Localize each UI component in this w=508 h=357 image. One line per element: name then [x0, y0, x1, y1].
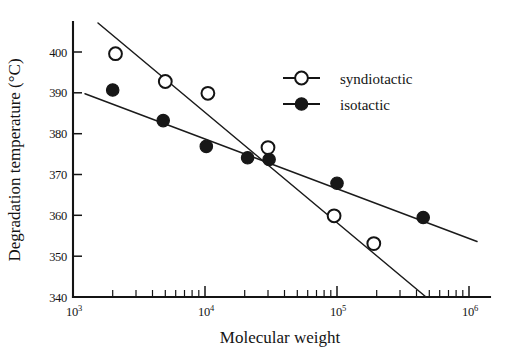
- axis-lines: [73, 22, 490, 297]
- x-axis-title: Molecular weight: [220, 328, 341, 347]
- y-tick-label: 350: [49, 250, 67, 264]
- data-point-isotactic: [417, 211, 429, 223]
- legend-label-isotactic: isotactic: [340, 97, 390, 113]
- legend: syndiotactic isotactic: [283, 71, 413, 113]
- legend-marker-filled-circle: [295, 98, 307, 110]
- y-axis-title: Degradation temperature (°C): [5, 58, 24, 261]
- x-tick-label: 103: [66, 303, 82, 319]
- data-point-syndiotactic: [328, 209, 341, 222]
- data-point-syndiotactic: [109, 47, 122, 60]
- trend-lines: [85, 23, 477, 297]
- data-point-syndiotactic: [367, 237, 380, 250]
- data-point-syndiotactic: [262, 141, 275, 154]
- y-tick-label: 370: [49, 168, 67, 182]
- x-tick-label: 105: [330, 303, 346, 319]
- data-point-isotactic: [200, 140, 212, 152]
- data-point-syndiotactic: [159, 75, 172, 88]
- data-point-syndiotactic: [202, 87, 215, 100]
- data-point-isotactic: [331, 177, 343, 189]
- y-tick-label: 340: [49, 291, 67, 305]
- y-axis-tick-labels: 400 390 380 370 360 350 340: [49, 46, 67, 305]
- legend-marker-open-circle: [295, 72, 308, 85]
- data-point-isotactic: [157, 114, 169, 126]
- y-tick-label: 390: [49, 86, 67, 100]
- chart-canvas: 400 390 380 370 360 350 340: [0, 0, 508, 357]
- degradation-temperature-chart: 400 390 380 370 360 350 340: [0, 0, 508, 357]
- y-tick-label: 380: [49, 127, 67, 141]
- x-axis-tick-labels: 103 104 105 106: [66, 303, 478, 319]
- y-axis-ticks: [73, 52, 82, 297]
- data-point-isotactic: [107, 84, 119, 96]
- data-point-isotactic: [241, 152, 253, 164]
- y-tick-label: 360: [49, 209, 67, 223]
- legend-item-syndiotactic[interactable]: syndiotactic: [283, 71, 413, 87]
- x-tick-label: 106: [462, 303, 478, 319]
- y-tick-label: 400: [49, 46, 67, 60]
- data-point-isotactic: [263, 153, 275, 165]
- x-tick-label: 104: [198, 303, 215, 319]
- legend-label-syndiotactic: syndiotactic: [340, 71, 413, 87]
- legend-item-isotactic[interactable]: isotactic: [283, 97, 390, 113]
